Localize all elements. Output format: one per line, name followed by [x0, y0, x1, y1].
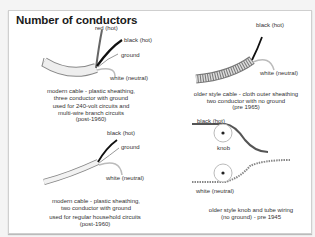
usage-line: used for regular household circuits: [30, 214, 160, 221]
label-white-neutral: white (neutral): [106, 175, 144, 182]
caption-line: two conductor with ground: [36, 205, 156, 212]
label-knob: knob: [217, 145, 230, 152]
knob-and-tube-icon: [192, 124, 290, 182]
usage-line: (post-1960): [30, 221, 160, 228]
caption-line: modern cable - plastic sheathing,: [36, 88, 146, 95]
caption-line: three conductor with ground: [36, 95, 146, 102]
caption-line: (pre 1965): [186, 104, 306, 111]
caption-line: modern cable - plastic sheathing,: [36, 198, 156, 205]
label-ground: ground: [121, 52, 140, 59]
label-black-hot: black (hot): [197, 118, 225, 125]
label-white-neutral: white (neutral): [110, 75, 148, 82]
label-black-hot: black (hot): [107, 130, 135, 137]
caption-line: (no ground) - pre 1945: [196, 214, 306, 221]
caption-line: older style knob and tube wiring: [196, 207, 306, 214]
three-conductor-cable-icon: [42, 30, 122, 76]
label-black-hot: black (hot): [124, 37, 152, 44]
usage-line: (post-1960): [36, 116, 146, 123]
label-red-hot: red (hot): [95, 25, 118, 32]
label-white-neutral: white (neutral): [196, 188, 234, 195]
label-black-hot: black (hot): [256, 22, 284, 29]
label-white-neutral: white (neutral): [260, 70, 298, 77]
caption-line: older style cable - cloth outer sheathin…: [186, 91, 306, 98]
label-ground: ground: [121, 144, 140, 151]
